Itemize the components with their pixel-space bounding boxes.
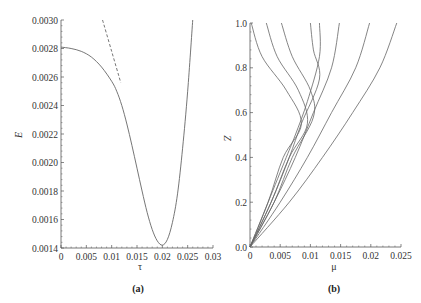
y-tick-label: 0.6 — [235, 108, 247, 118]
y-tick-label: 0.0026 — [32, 73, 58, 83]
y-tick-label: 0.2 — [235, 198, 247, 208]
profile-curve — [250, 23, 315, 247]
figure: 00.0050.010.0150.020.0250.030.00140.0016… — [0, 0, 421, 303]
x-tick-label: 0 — [59, 252, 64, 262]
y-tick-label: 0.0018 — [32, 187, 58, 197]
x-tick-label: 0.02 — [154, 252, 171, 262]
y-tick-label: 0.4 — [235, 153, 247, 163]
y-tick-label: 0.8 — [235, 63, 247, 73]
dashed-asymptote-curve — [103, 20, 121, 83]
energy-curve — [61, 20, 193, 245]
y-tick-label: 0.0022 — [32, 130, 58, 140]
x-tick-label: 0.01 — [103, 252, 120, 262]
y-tick-label: 0.0014 — [32, 244, 58, 254]
y-tick-label: 0.0028 — [32, 44, 58, 54]
panel-a-y-axis-label: E — [13, 132, 24, 139]
x-tick-label: 0.03 — [205, 252, 222, 262]
panel-b-x-axis-label: μ — [331, 261, 336, 272]
panel-b-y-axis-label: Z — [222, 135, 233, 141]
panel-a-label: (a) — [132, 283, 144, 295]
x-tick-label: 0.02 — [362, 251, 379, 261]
y-tick-label: 0.0020 — [32, 158, 58, 168]
profile-curve — [250, 23, 308, 247]
profile-curve — [250, 23, 301, 247]
y-tick-label: 1.0 — [235, 19, 247, 29]
profile-curve — [250, 23, 397, 247]
panel-b-chart: 00.0050.010.0150.020.0250.00.20.40.60.81… — [235, 19, 412, 262]
x-tick-label: 0.015 — [330, 251, 352, 261]
panel-a-chart: 00.0050.010.0150.020.0250.030.00140.0016… — [32, 16, 222, 263]
x-tick-label: 0.005 — [270, 251, 292, 261]
y-tick-label: 0.0030 — [32, 16, 58, 26]
x-tick-label: 0.005 — [76, 252, 98, 262]
x-tick-label: 0.025 — [177, 252, 199, 262]
x-tick-label: 0.01 — [302, 251, 319, 261]
profile-curve — [250, 23, 320, 247]
x-tick-label: 0.025 — [390, 251, 412, 261]
y-tick-label: 0.0024 — [32, 101, 58, 111]
y-tick-label: 0.0 — [235, 243, 247, 253]
x-tick-label: 0 — [248, 251, 253, 261]
panel-b-label: (b) — [328, 283, 340, 295]
profile-curve — [250, 23, 320, 247]
panel-a-x-axis-label: τ — [138, 261, 142, 272]
y-tick-label: 0.0016 — [32, 215, 58, 225]
